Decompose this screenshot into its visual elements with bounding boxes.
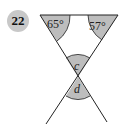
angle-diagram: 65° 57° c d: [0, 0, 122, 137]
angle-label-d: d: [74, 82, 81, 96]
angle-label-c: c: [74, 59, 80, 73]
angle-label-65: 65°: [47, 17, 64, 31]
angle-label-57: 57°: [89, 19, 106, 33]
